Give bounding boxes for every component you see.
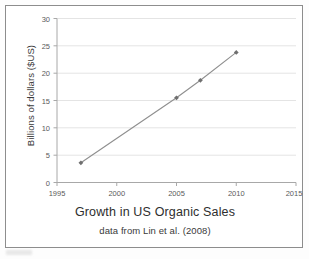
x-tick-label-2010: 2010 [216,189,256,198]
x-tick-label-2015: 2015 [274,189,309,198]
line-chart: 30 25 20 15 10 5 0 1995 2000 2005 2010 2… [6,6,304,249]
x-tick-label-2005: 2005 [157,189,197,198]
scan-artifact [6,250,32,255]
y-tick-label-0: 0 [26,179,50,188]
x-tick-label-1995: 1995 [37,189,77,198]
x-axis-ticks [57,183,296,187]
y-axis-title: Billions of dollars ($US) [25,16,36,176]
figure-frame: 30 25 20 15 10 5 0 1995 2000 2005 2010 2… [5,5,303,248]
chart-title: Growth in US Organic Sales [6,205,304,219]
gridlines [57,19,296,156]
chart-subtitle: data from Lin et al. (2008) [6,225,304,236]
data-series-line [81,52,236,162]
x-tick-label-2000: 2000 [97,189,137,198]
y-axis-ticks [54,19,58,183]
scanned-page: 30 25 20 15 10 5 0 1995 2000 2005 2010 2… [0,0,309,259]
